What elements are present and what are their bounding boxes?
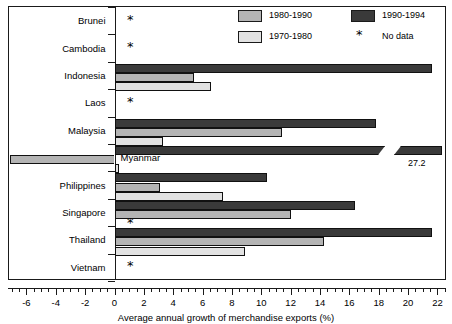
x-tick-major xyxy=(115,288,116,295)
x-tick-minor xyxy=(445,288,446,292)
bar-malaysia-1980-1990 xyxy=(115,128,282,137)
x-tick-minor xyxy=(78,288,79,292)
bar-myanmar-1980-1990 xyxy=(10,155,114,164)
no-data-asterisk-vietnam: * xyxy=(127,260,134,271)
x-tick-minor xyxy=(181,288,182,292)
x-tick-minor xyxy=(41,288,42,292)
x-tick-label: 6 xyxy=(191,297,215,309)
x-tick-minor xyxy=(415,288,416,292)
x-tick-label: 0 xyxy=(103,297,127,309)
category-tick xyxy=(108,171,115,172)
x-tick-minor xyxy=(313,288,314,292)
bar-thailand-1970-1980 xyxy=(115,247,246,256)
x-tick-label: 10 xyxy=(249,297,273,309)
x-tick-minor xyxy=(342,288,343,292)
bar-myanmar-1990-1994-segment-b xyxy=(394,146,442,155)
bar-indonesia-1990-1994 xyxy=(115,64,432,73)
x-tick-minor xyxy=(254,288,255,292)
x-tick-minor xyxy=(371,288,372,292)
x-tick-major xyxy=(26,288,27,295)
x-tick-minor xyxy=(100,288,101,292)
category-label-indonesia: Indonesia xyxy=(0,70,106,81)
x-tick-major xyxy=(437,288,438,295)
bar-myanmar-1990-1994-segment-a xyxy=(115,146,386,155)
x-tick-label: 12 xyxy=(279,297,303,309)
no-data-asterisk-laos: * xyxy=(127,96,134,107)
category-label-malaysia: Malaysia xyxy=(0,125,106,136)
category-tick xyxy=(108,144,115,145)
x-tick-minor xyxy=(19,288,20,292)
x-tick-minor xyxy=(357,288,358,292)
plot-area: Brunei*Cambodia*IndonesiaLaos*MalaysiaMy… xyxy=(0,0,452,324)
category-tick xyxy=(108,89,115,90)
category-tick xyxy=(108,226,115,227)
bar-thailand-1990-1994 xyxy=(115,228,432,237)
x-axis-line xyxy=(8,288,446,289)
category-label-cambodia: Cambodia xyxy=(0,43,106,54)
x-tick-minor xyxy=(276,288,277,292)
category-label-brunei: Brunei xyxy=(0,15,106,26)
x-tick-major xyxy=(56,288,57,295)
x-tick-minor xyxy=(401,288,402,292)
category-tick xyxy=(108,254,115,255)
bar-myanmar-1970-1980 xyxy=(115,164,119,173)
category-tick xyxy=(108,281,115,282)
category-tick xyxy=(108,62,115,63)
x-tick-major xyxy=(85,288,86,295)
x-tick-major xyxy=(173,288,174,295)
x-tick-minor xyxy=(430,288,431,292)
bar-thailand-1980-1990 xyxy=(115,237,325,246)
x-tick-minor xyxy=(335,288,336,292)
x-tick-minor xyxy=(247,288,248,292)
no-data-asterisk-cambodia: * xyxy=(127,41,134,52)
x-axis: Average annual growth of merchandise exp… xyxy=(0,288,452,324)
x-tick-major xyxy=(408,288,409,295)
category-label-thailand: Thailand xyxy=(0,234,106,245)
x-tick-minor xyxy=(393,288,394,292)
bar-singapore-1980-1990 xyxy=(115,210,291,219)
x-tick-label: 18 xyxy=(367,297,391,309)
bar-singapore-1990-1994 xyxy=(115,201,356,210)
x-tick-minor xyxy=(283,288,284,292)
x-tick-major xyxy=(261,288,262,295)
x-tick-minor xyxy=(423,288,424,292)
x-tick-minor xyxy=(269,288,270,292)
x-tick-minor xyxy=(386,288,387,292)
x-tick-minor xyxy=(188,288,189,292)
x-tick-label: 4 xyxy=(161,297,185,309)
x-tick-label: 20 xyxy=(396,297,420,309)
category-label-laos: Laos xyxy=(0,97,106,108)
x-tick-label: 14 xyxy=(308,297,332,309)
bar-malaysia-1990-1994 xyxy=(115,119,376,128)
x-tick-minor xyxy=(137,288,138,292)
x-tick-major xyxy=(232,288,233,295)
x-tick-major xyxy=(203,288,204,295)
x-tick-minor xyxy=(92,288,93,292)
category-label-philippines: Philippines xyxy=(0,180,106,191)
x-tick-minor xyxy=(298,288,299,292)
x-tick-minor xyxy=(225,288,226,292)
x-tick-minor xyxy=(210,288,211,292)
bar-philippines-1980-1990 xyxy=(115,183,161,192)
x-axis-title: Average annual growth of merchandise exp… xyxy=(0,312,452,323)
x-tick-label: 2 xyxy=(132,297,156,309)
x-tick-minor xyxy=(12,288,13,292)
x-tick-label: 8 xyxy=(220,297,244,309)
bar-value-label-myanmar: 27.2 xyxy=(408,158,426,168)
x-tick-major xyxy=(320,288,321,295)
no-data-asterisk-singapore-1970-1980: * xyxy=(127,217,134,228)
no-data-asterisk-brunei: * xyxy=(127,14,134,25)
x-tick-major xyxy=(379,288,380,295)
x-tick-minor xyxy=(166,288,167,292)
bar-indonesia-1980-1990 xyxy=(115,73,194,82)
x-tick-minor xyxy=(195,288,196,292)
x-tick-minor xyxy=(122,288,123,292)
x-tick-major xyxy=(349,288,350,295)
x-tick-minor xyxy=(70,288,71,292)
bar-philippines-1970-1980 xyxy=(115,192,224,201)
x-tick-major xyxy=(144,288,145,295)
chart-merchandise-export-growth: 1980-1990 1990-1994 1970-1980 * No data … xyxy=(0,0,452,324)
x-tick-label: 22 xyxy=(425,297,449,309)
category-tick xyxy=(108,117,115,118)
x-tick-minor xyxy=(34,288,35,292)
